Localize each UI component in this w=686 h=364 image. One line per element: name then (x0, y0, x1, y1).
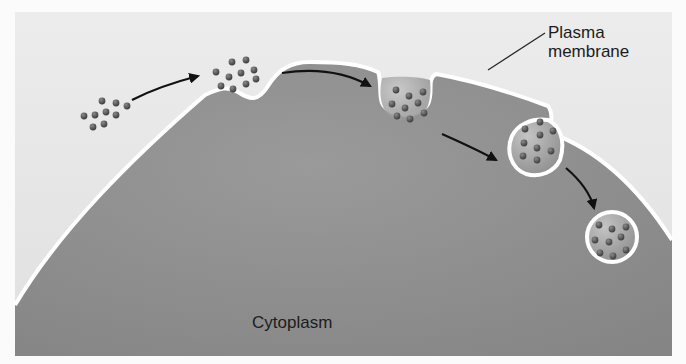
membrane-label-line-2: membrane (548, 42, 629, 61)
plasma-membrane-label: Plasma membrane (548, 23, 629, 61)
membrane-label-line-1: Plasma (548, 23, 629, 42)
cytoplasm-label: Cytoplasm (252, 313, 332, 332)
endocytosis-diagram: Plasma membrane Cytoplasm (0, 0, 686, 364)
